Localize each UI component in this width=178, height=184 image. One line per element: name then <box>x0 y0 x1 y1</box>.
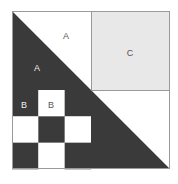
checkerboard-cell-1-2 <box>65 116 92 143</box>
pythagorean-dissection-figure: AACBB <box>0 0 178 184</box>
checkerboard-cell-1-1 <box>38 116 65 143</box>
checkerboard-cell-0-2 <box>65 90 92 117</box>
label-b-white: B <box>48 100 54 110</box>
checkerboard-cell-1-0 <box>12 116 39 143</box>
label-a-white: A <box>63 31 69 41</box>
checkerboard-cell-2-0 <box>12 143 39 170</box>
label-b-dark: B <box>21 100 27 110</box>
checkerboard-cell-2-1 <box>38 143 65 170</box>
label-a-dark: A <box>34 63 40 73</box>
label-c-gray: C <box>127 48 134 58</box>
checkerboard-cell-2-2 <box>65 143 92 170</box>
dissection-diagram: AACBB <box>0 0 178 184</box>
